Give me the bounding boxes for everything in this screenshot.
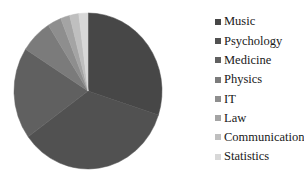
legend-item-statistics: Statistics [215, 147, 304, 166]
legend-item-music: Music [215, 12, 304, 31]
legend-item-psychology: Psychology [215, 31, 304, 50]
legend-label-music: Music [224, 15, 255, 28]
legend-item-it: IT [215, 89, 304, 108]
legend-marker-communication [215, 134, 221, 140]
legend-label-it: IT [224, 93, 236, 106]
legend-marker-law [215, 115, 221, 121]
pie-chart [0, 0, 200, 173]
legend-item-physics: Physics [215, 70, 304, 89]
pie-plot-area [0, 0, 200, 173]
legend-marker-statistics [215, 154, 221, 160]
legend-marker-it [215, 96, 221, 102]
legend-marker-music [215, 19, 221, 25]
legend-label-psychology: Psychology [224, 35, 282, 48]
legend-marker-psychology [215, 38, 221, 44]
legend-label-law: Law [224, 112, 246, 125]
legend-marker-medicine [215, 57, 221, 63]
legend-marker-physics [215, 77, 221, 83]
legend-label-statistics: Statistics [224, 150, 269, 163]
chart-canvas: Music Psychology Medicine Physics IT Law… [0, 0, 304, 173]
legend-item-law: Law [215, 108, 304, 127]
legend-label-communication: Communication [224, 131, 304, 144]
legend-label-medicine: Medicine [224, 54, 271, 67]
legend-item-medicine: Medicine [215, 51, 304, 70]
legend-label-physics: Physics [224, 73, 262, 86]
legend-item-communication: Communication [215, 128, 304, 147]
legend: Music Psychology Medicine Physics IT Law… [215, 12, 304, 166]
